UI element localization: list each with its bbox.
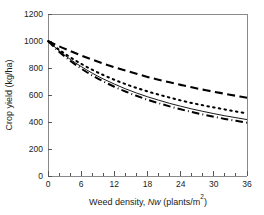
x-tick-label: 30 (209, 179, 219, 189)
y-tick-label: 1000 (24, 36, 43, 46)
y-axis-tick-labels: 020040060080010001200 (24, 9, 43, 181)
x-tick-label: 6 (79, 179, 84, 189)
y-axis-title: Crop yield (kg/ha) (4, 59, 14, 130)
curve-solid (48, 41, 247, 120)
y-tick-label: 0 (38, 171, 43, 181)
x-tick-label: 0 (46, 179, 51, 189)
x-axis-ticks (48, 171, 247, 176)
x-axis-tick-labels: 061218243036 (46, 179, 252, 189)
y-tick-label: 400 (29, 117, 43, 127)
y-tick-label: 200 (29, 144, 43, 154)
data-curves (48, 41, 247, 123)
x-tick-label: 24 (176, 179, 186, 189)
x-tick-label: 18 (143, 179, 153, 189)
y-tick-label: 800 (29, 63, 43, 73)
y-tick-label: 1200 (24, 9, 43, 19)
x-tick-label: 36 (242, 179, 252, 189)
y-axis-ticks (48, 14, 52, 176)
plot-frame (48, 14, 247, 176)
curve-dashed (48, 41, 247, 98)
x-axis-title: Weed density, Nw (plants/m2) (89, 193, 207, 208)
crop-yield-weed-density-chart: 061218243036 020040060080010001200 Weed … (0, 0, 264, 215)
y-tick-label: 600 (29, 90, 43, 100)
chart-figure: 061218243036 020040060080010001200 Weed … (0, 0, 264, 215)
x-tick-label: 12 (110, 179, 120, 189)
